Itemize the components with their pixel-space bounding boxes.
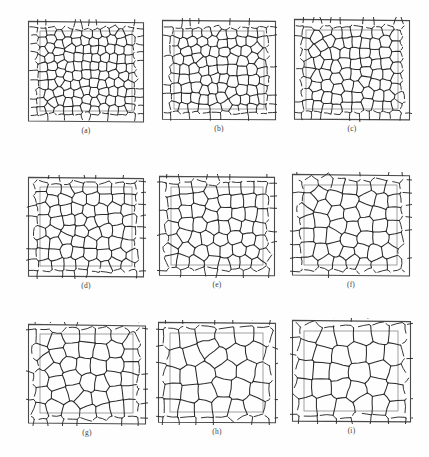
panel-f: (f) xyxy=(290,172,412,294)
panel-c-caption: (c) xyxy=(292,124,412,133)
panel-h-outer-frame xyxy=(159,322,276,422)
panel-c: (c) xyxy=(292,17,412,138)
panel-d-graphic xyxy=(26,175,146,279)
panel-g-graphic xyxy=(26,322,148,426)
panel-g: (g) xyxy=(26,322,148,442)
panel-f-outer-frame xyxy=(293,174,410,276)
panel-i: (i) xyxy=(290,318,413,440)
panel-e-simulation-box xyxy=(171,187,263,265)
panel-e-graphic xyxy=(157,174,277,278)
panel-h-caption: (h) xyxy=(156,427,278,436)
panel-i-graphic xyxy=(290,318,413,424)
panel-c-graphic xyxy=(292,17,412,122)
panel-a-grain-network xyxy=(30,20,144,121)
panel-f-grain-network xyxy=(290,172,412,278)
panel-grid: (a)(b)(c)(d)(e)(f)(g)(h)(i) xyxy=(0,0,429,457)
panel-i-grain-network xyxy=(290,318,413,424)
panel-g-grain-network xyxy=(26,322,148,426)
panel-d: (d) xyxy=(26,175,146,295)
panel-a: (a) xyxy=(26,19,146,140)
panel-a-caption: (a) xyxy=(26,126,146,135)
panel-b-grain-network xyxy=(163,18,277,120)
panel-e: (e) xyxy=(157,174,277,294)
panel-h-grain-network xyxy=(156,320,278,425)
figure-container: (a)(b)(c)(d)(e)(f)(g)(h)(i) xyxy=(0,0,429,457)
panel-b-graphic xyxy=(160,18,278,122)
panel-d-grain-network xyxy=(26,175,146,279)
panel-i-caption: (i) xyxy=(290,426,413,435)
panel-f-simulation-box xyxy=(304,185,397,265)
panel-i-outer-frame xyxy=(293,320,411,422)
panel-b-caption: (b) xyxy=(160,124,278,133)
panel-g-caption: (g) xyxy=(26,428,148,437)
panel-e-caption: (e) xyxy=(157,280,277,289)
panel-h-graphic xyxy=(156,320,278,425)
panel-h: (h) xyxy=(156,320,278,441)
panel-c-grain-network xyxy=(295,17,412,122)
panel-a-graphic xyxy=(26,19,146,124)
panel-d-caption: (d) xyxy=(26,281,146,290)
panel-b: (b) xyxy=(160,18,278,138)
panel-f-caption: (f) xyxy=(290,280,412,289)
panel-e-grain-network xyxy=(157,174,277,278)
panel-f-graphic xyxy=(290,172,412,278)
